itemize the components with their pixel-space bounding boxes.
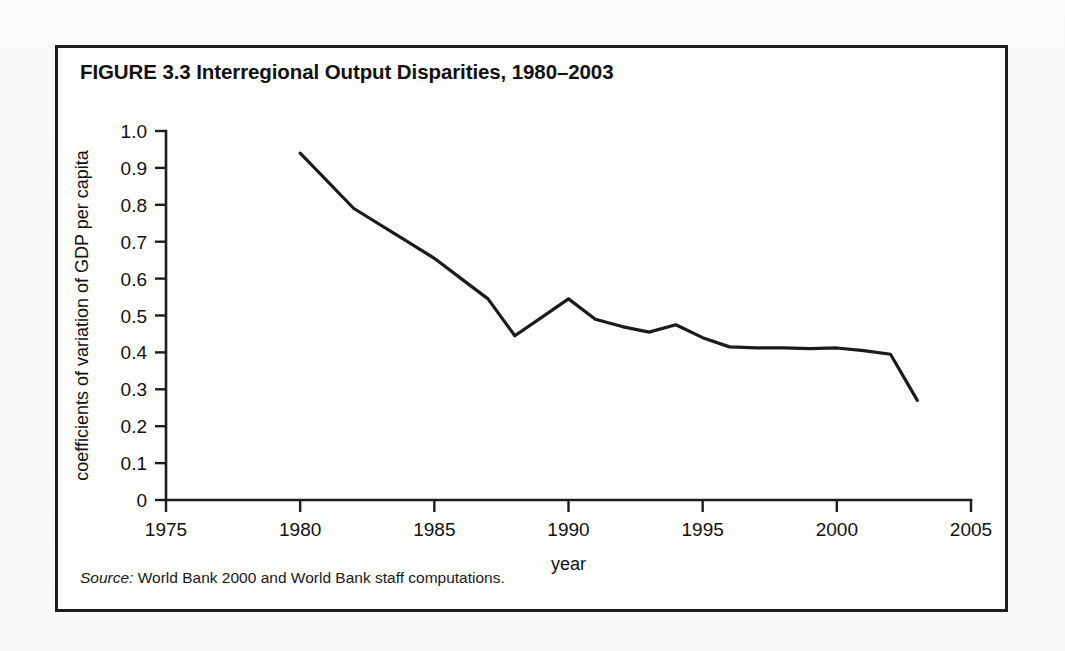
x-axis-title: year [551,554,586,574]
y-tick-label: 0 [136,490,147,511]
x-tick-label: 1975 [145,519,187,540]
x-tick-label: 1990 [547,519,589,540]
source-note: Source: World Bank 2000 and World Bank s… [80,569,505,587]
x-tick-label: 1980 [279,519,321,540]
y-tick-label: 0.4 [121,342,148,363]
y-axis-title: coefficients of variation of GDP per cap… [72,149,92,481]
y-axis-tick-labels: 00.10.20.30.40.50.60.70.80.91.0 [121,121,148,511]
data-series-line [300,153,917,400]
y-tick-label: 0.5 [121,306,147,327]
y-tick-label: 0.2 [121,416,147,437]
source-label: Source: [80,569,133,586]
y-tick-label: 0.7 [121,232,147,253]
y-tick-label: 0.3 [121,379,147,400]
x-tick-label: 1995 [682,519,724,540]
y-tick-label: 0.1 [121,453,147,474]
axis-tick-marks [155,131,971,512]
x-axis-tick-labels: 1975198019851990199520002005 [145,519,992,540]
y-tick-label: 0.9 [121,158,147,179]
source-text: World Bank 2000 and World Bank staff com… [133,569,504,586]
line-chart-svg: 00.10.20.30.40.50.60.70.80.91.0 19751980… [58,48,1011,615]
x-tick-label: 2005 [950,519,992,540]
y-tick-label: 0.8 [121,195,147,216]
y-tick-label: 0.6 [121,269,147,290]
y-tick-label: 1.0 [121,121,147,142]
x-tick-label: 2000 [816,519,858,540]
chart-plot-area: 00.10.20.30.40.50.60.70.80.91.0 19751980… [58,48,1011,615]
figure-box: FIGURE 3.3 Interregional Output Disparit… [55,45,1008,612]
x-tick-label: 1985 [413,519,455,540]
